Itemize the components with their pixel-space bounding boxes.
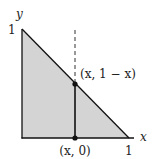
triangle-diagram: y 1 x 1 (x, 1 − x) (x, 0) — [0, 0, 155, 159]
bottom-point-label: (x, 0) — [59, 144, 90, 158]
top-point — [72, 81, 77, 86]
y-axis-label: y — [15, 7, 23, 21]
x-axis-label: x — [140, 130, 147, 144]
y-tick-label: 1 — [8, 23, 16, 37]
bottom-point — [72, 135, 77, 140]
top-point-label: (x, 1 − x) — [80, 67, 136, 81]
x-tick-label: 1 — [125, 144, 133, 158]
